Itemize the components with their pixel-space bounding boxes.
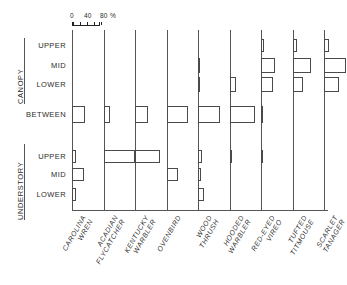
scale-legend: 04080% xyxy=(62,12,118,30)
species-label-row: CAROLINAWRENACADIANFLYCATCHERKENTUCKYWAR… xyxy=(0,212,344,285)
scale-tick-40 xyxy=(87,22,88,25)
plot-area xyxy=(72,30,324,210)
scale-tick-label-0: 0 xyxy=(70,12,74,19)
row-label-column: UPPERMIDLOWERBETWEENUPPERMIDLOWER xyxy=(0,30,70,210)
scale-tick-80 xyxy=(101,22,102,25)
bar-8-1 xyxy=(293,39,298,52)
bar-7-4 xyxy=(261,106,263,123)
bar-1-6 xyxy=(72,168,84,181)
row-label-5: UPPER xyxy=(38,152,66,161)
scale-tick-label-40: 40 xyxy=(84,12,92,19)
bar-6-3 xyxy=(230,77,236,92)
bar-2-4 xyxy=(104,106,110,123)
bar-2-5 xyxy=(104,150,136,163)
bar-5-6 xyxy=(198,168,201,181)
bar-7-2 xyxy=(261,58,275,73)
bar-9-1 xyxy=(324,39,329,52)
bar-8-2 xyxy=(293,58,312,73)
scale-tick-labels: 04080% xyxy=(62,12,118,21)
bar-3-4 xyxy=(135,106,148,123)
bar-6-4 xyxy=(230,106,256,123)
scale-unit-label: % xyxy=(110,12,116,19)
scale-tick-20 xyxy=(80,22,81,25)
bar-9-3 xyxy=(324,77,339,92)
scale-tick-0 xyxy=(73,22,74,25)
row-label-4: BETWEEN xyxy=(26,110,66,119)
species-axis-8 xyxy=(293,30,294,210)
row-label-2: MID xyxy=(51,61,66,70)
bar-5-5 xyxy=(198,150,202,163)
row-label-3: LOWER xyxy=(36,80,66,89)
row-label-1: UPPER xyxy=(38,41,66,50)
bar-3-5 xyxy=(135,150,160,163)
row-label-7: LOWER xyxy=(36,190,66,199)
bar-1-4 xyxy=(72,106,85,123)
scale-tick-label-80: 80 xyxy=(100,12,108,19)
bar-9-2 xyxy=(324,58,346,73)
scale-axis-bar xyxy=(72,22,100,26)
bar-1-5 xyxy=(72,150,76,163)
bar-7-3 xyxy=(261,77,273,92)
group-label-1: CANOPY xyxy=(16,69,25,104)
x-baseline xyxy=(72,210,328,211)
bar-6-5 xyxy=(230,150,232,163)
bar-5-7 xyxy=(198,188,204,201)
bar-7-5 xyxy=(261,150,263,163)
row-label-6: MID xyxy=(51,170,66,179)
bar-5-4 xyxy=(198,106,220,123)
bar-4-4 xyxy=(167,106,189,123)
bar-7-1 xyxy=(261,39,264,52)
bar-5-3 xyxy=(198,77,200,92)
scale-tick-60 xyxy=(94,22,95,25)
bar-8-3 xyxy=(293,77,304,92)
bar-4-6 xyxy=(167,168,179,181)
bar-5-2 xyxy=(198,58,200,73)
bar-1-7 xyxy=(72,188,76,201)
species-axis-9 xyxy=(324,30,325,210)
